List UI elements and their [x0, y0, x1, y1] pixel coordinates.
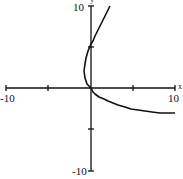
curve: [84, 6, 175, 113]
graph: -10 10 10 -10 x y: [0, 0, 183, 179]
x-max-label: 10: [168, 92, 180, 104]
y-max-label: 10: [73, 1, 85, 13]
x-min-label: -10: [0, 92, 15, 104]
y-axis-label: y: [90, 0, 94, 4]
x-axis-label: x: [178, 82, 182, 91]
y-min-label: -10: [72, 165, 87, 177]
